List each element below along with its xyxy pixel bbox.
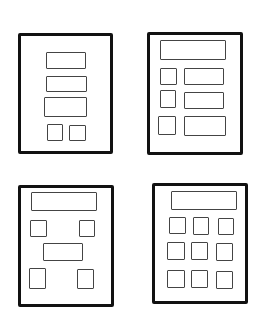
wireframe-block <box>79 220 95 237</box>
wireframe-block <box>191 270 208 288</box>
wireframe-block <box>69 125 86 141</box>
wireframe-block <box>31 192 97 211</box>
wireframe-block <box>169 217 186 234</box>
wireframe-block <box>167 270 185 288</box>
wireframe-block <box>184 68 224 85</box>
wireframe-block <box>171 191 237 210</box>
wireframe-block <box>184 116 226 136</box>
wireframe-block <box>167 242 185 260</box>
wireframe-block <box>46 76 87 92</box>
wireframe-block <box>160 90 176 108</box>
wireframe-block <box>77 269 94 289</box>
wireframe-block <box>47 124 63 141</box>
wireframe-block <box>44 97 87 117</box>
wireframe-block <box>218 218 234 235</box>
wireframe-block <box>46 52 86 69</box>
wireframe-block <box>216 271 233 289</box>
wireframe-block <box>29 268 46 289</box>
wireframe-block <box>216 243 233 261</box>
wireframe-block <box>30 220 47 237</box>
wireframe-block <box>43 243 83 261</box>
wireframe-block <box>160 40 226 60</box>
wireframe-block <box>191 242 208 260</box>
wireframe-block <box>193 217 209 235</box>
wireframe-block <box>160 68 177 85</box>
wireframe-block <box>184 92 224 109</box>
wireframe-block <box>158 116 176 135</box>
